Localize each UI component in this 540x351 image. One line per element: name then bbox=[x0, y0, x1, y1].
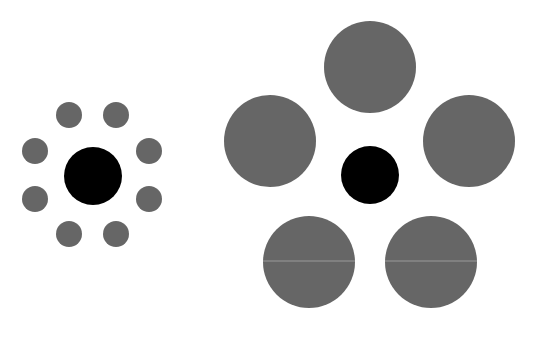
inducer-circle-large bbox=[324, 21, 416, 113]
ebbinghaus-illusion-canvas bbox=[0, 0, 540, 351]
inducer-circle-small bbox=[103, 221, 129, 247]
inducer-circle-small bbox=[136, 186, 162, 212]
right-figure-large-inducers bbox=[224, 21, 515, 308]
illusion-figure bbox=[0, 0, 540, 351]
inducer-circle-large bbox=[263, 216, 355, 308]
left-figure-small-inducers bbox=[22, 102, 162, 247]
inducer-circle-small bbox=[22, 186, 48, 212]
inducer-circle-small bbox=[56, 221, 82, 247]
target-circle bbox=[64, 147, 122, 205]
inducer-circle-large bbox=[224, 95, 316, 187]
inducer-circle-large bbox=[385, 216, 477, 308]
target-circle bbox=[341, 146, 399, 204]
inducer-circle-small bbox=[136, 138, 162, 164]
inducer-circle-large bbox=[423, 95, 515, 187]
inducer-circle-small bbox=[103, 102, 129, 128]
inducer-circle-small bbox=[56, 102, 82, 128]
inducer-circle-small bbox=[22, 138, 48, 164]
